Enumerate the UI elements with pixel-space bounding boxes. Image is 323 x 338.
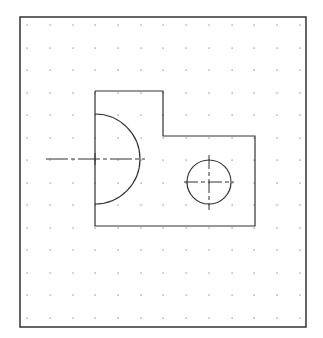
- grid-dot: [50, 25, 51, 26]
- grid-dot: [254, 318, 255, 319]
- grid-dot: [118, 48, 119, 49]
- grid-dot: [73, 70, 74, 71]
- grid-dot: [27, 115, 28, 116]
- grid-dot: [27, 70, 28, 71]
- grid-dot: [163, 228, 164, 229]
- grid-dot: [27, 138, 28, 139]
- grid-dot: [95, 295, 96, 296]
- grid-dot: [73, 93, 74, 94]
- grid-dot: [27, 25, 28, 26]
- grid-dot: [163, 250, 164, 251]
- grid-dot: [300, 48, 301, 49]
- grid-dot: [209, 70, 210, 71]
- grid-dot: [300, 228, 301, 229]
- grid-dot: [73, 160, 74, 161]
- grid-dot: [163, 138, 164, 139]
- grid-dot: [50, 93, 51, 94]
- grid-dot: [277, 115, 278, 116]
- drawing-canvas: [0, 0, 323, 338]
- grid-dot: [73, 318, 74, 319]
- grid-dot: [186, 93, 187, 94]
- grid-dot: [232, 295, 233, 296]
- grid-dot: [73, 48, 74, 49]
- grid-dot: [232, 48, 233, 49]
- grid-dot: [50, 115, 51, 116]
- grid-dot: [300, 138, 301, 139]
- grid-dot: [254, 228, 255, 229]
- grid-dot: [163, 205, 164, 206]
- grid-dot: [141, 48, 142, 49]
- grid-dot: [73, 183, 74, 184]
- grid-dot: [163, 70, 164, 71]
- grid-dot: [277, 183, 278, 184]
- grid-dot: [277, 228, 278, 229]
- grid-dot: [232, 70, 233, 71]
- grid-dot: [209, 25, 210, 26]
- grid-dot: [277, 295, 278, 296]
- grid-dot: [277, 70, 278, 71]
- grid-dot: [118, 273, 119, 274]
- grid-dot: [186, 295, 187, 296]
- grid-dot: [277, 160, 278, 161]
- grid-dot: [73, 25, 74, 26]
- grid-dot: [186, 318, 187, 319]
- grid-dot: [209, 250, 210, 251]
- grid-dot: [95, 70, 96, 71]
- grid-dot: [141, 183, 142, 184]
- grid-dot: [277, 138, 278, 139]
- grid-dot: [300, 25, 301, 26]
- grid-dot: [163, 160, 164, 161]
- grid-dot: [232, 205, 233, 206]
- grid-dot: [118, 228, 119, 229]
- grid-dot: [118, 138, 119, 139]
- grid-dot: [186, 205, 187, 206]
- grid-dot: [50, 250, 51, 251]
- grid-dot: [186, 228, 187, 229]
- grid-dot: [50, 138, 51, 139]
- grid-dot: [254, 273, 255, 274]
- grid-dot: [118, 93, 119, 94]
- grid-dot: [300, 205, 301, 206]
- grid-dot: [163, 318, 164, 319]
- grid-dot: [209, 295, 210, 296]
- grid-dot: [254, 295, 255, 296]
- grid-dot: [73, 273, 74, 274]
- grid-dot: [277, 273, 278, 274]
- grid-dot: [50, 205, 51, 206]
- grid-dot: [118, 70, 119, 71]
- grid-dot: [141, 115, 142, 116]
- grid-dot: [254, 115, 255, 116]
- grid-dot: [73, 138, 74, 139]
- grid-dot: [232, 228, 233, 229]
- grid-dot: [232, 273, 233, 274]
- grid-dot: [50, 160, 51, 161]
- grid-dot: [118, 183, 119, 184]
- grid-dot: [186, 138, 187, 139]
- grid-dot: [50, 273, 51, 274]
- grid-dot: [27, 48, 28, 49]
- grid-dot: [186, 273, 187, 274]
- grid-dot: [73, 250, 74, 251]
- grid-dot: [73, 205, 74, 206]
- grid-dot: [118, 160, 119, 161]
- grid-dot: [163, 183, 164, 184]
- grid-dot: [186, 70, 187, 71]
- grid-dot: [141, 318, 142, 319]
- grid-dot: [254, 93, 255, 94]
- grid-dot: [118, 205, 119, 206]
- grid-dot: [300, 183, 301, 184]
- grid-dot: [141, 70, 142, 71]
- grid-dot: [254, 25, 255, 26]
- grid-dot: [163, 273, 164, 274]
- grid-dot: [300, 273, 301, 274]
- grid-dot: [254, 70, 255, 71]
- grid-dot: [95, 318, 96, 319]
- grid-dot: [232, 183, 233, 184]
- grid-dot: [118, 295, 119, 296]
- grid-dot: [232, 250, 233, 251]
- grid-dot: [163, 25, 164, 26]
- grid-dot: [118, 318, 119, 319]
- grid-dot: [50, 183, 51, 184]
- grid-dot: [27, 273, 28, 274]
- grid-dot: [27, 183, 28, 184]
